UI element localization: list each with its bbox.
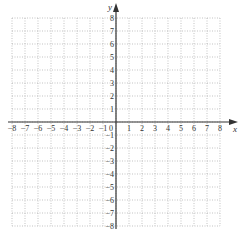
x-tick-label: 5 [179, 124, 183, 133]
y-tick-label: −7 [105, 209, 114, 218]
x-tick-label: −3 [73, 124, 82, 133]
x-tick-label: −4 [60, 124, 69, 133]
y-tick-label: −2 [105, 144, 114, 153]
y-tick-label: −5 [105, 183, 114, 192]
x-tick-label: 1 [127, 124, 131, 133]
x-tick-label: −5 [47, 124, 56, 133]
x-tick-label: −2 [86, 124, 95, 133]
y-tick-label: 8 [110, 14, 114, 23]
x-axis-label: x [232, 124, 237, 134]
x-tick-label: −7 [21, 124, 30, 133]
x-tick-label: 2 [140, 124, 144, 133]
y-tick-label: −8 [105, 222, 114, 230]
x-tick-label: 7 [205, 124, 209, 133]
y-tick-label: −3 [105, 157, 114, 166]
y-tick-label: −4 [105, 170, 114, 179]
y-tick-label: 3 [110, 79, 114, 88]
coordinate-plane: −8−7−6−5−4−3−2−112345678−8−7−6−5−4−3−2−1… [0, 0, 243, 230]
x-tick-label: 6 [192, 124, 196, 133]
x-tick-label: −6 [34, 124, 43, 133]
origin-label: 0 [109, 124, 113, 133]
y-tick-label: 7 [110, 27, 114, 36]
x-tick-label: 3 [153, 124, 157, 133]
y-axis-arrow-icon [113, 3, 119, 12]
y-tick-label: 1 [110, 105, 114, 114]
y-tick-label: 5 [110, 53, 114, 62]
y-tick-label: 6 [110, 40, 114, 49]
axes [8, 3, 238, 229]
x-tick-label: 4 [166, 124, 170, 133]
x-tick-label: −8 [8, 124, 17, 133]
x-tick-label: 8 [218, 124, 222, 133]
y-tick-label: −6 [105, 196, 114, 205]
y-tick-label: 2 [110, 92, 114, 101]
y-tick-label: 4 [110, 66, 114, 75]
y-axis-label: y [107, 2, 112, 12]
